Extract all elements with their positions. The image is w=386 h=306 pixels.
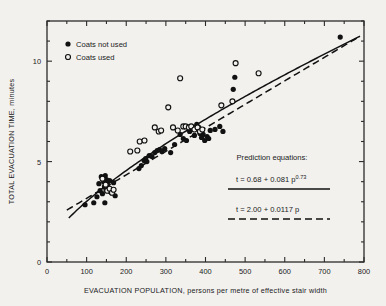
x-tick-label: 200: [120, 267, 132, 276]
fit-curve-linear-fit: [67, 36, 360, 210]
data-point-coats-not-used: [208, 128, 213, 133]
evacuation-time-scatter-chart: 01002003004005006007008000510EVACUATION …: [0, 0, 386, 306]
data-point-coats-used: [171, 125, 176, 130]
prediction-equation-2: t = 2.00 + 0.0117 p: [236, 205, 299, 214]
y-tick-label: 5: [37, 158, 41, 167]
x-tick-label: 0: [45, 267, 49, 276]
legend-label-0: Coats not used: [76, 40, 127, 49]
data-point-coats-not-used: [168, 150, 173, 155]
data-point-coats-not-used: [232, 75, 237, 80]
data-point-coats-not-used: [231, 87, 236, 92]
x-tick-label: 800: [358, 267, 370, 276]
data-point-coats-not-used: [220, 129, 225, 134]
data-point-coats-not-used: [82, 202, 87, 207]
x-tick-label: 100: [80, 267, 92, 276]
data-point-coats-not-used: [100, 191, 105, 196]
data-point-coats-not-used: [111, 180, 116, 185]
data-point-coats-used: [152, 125, 157, 130]
data-point-coats-not-used: [91, 200, 96, 205]
data-point-coats-used: [135, 148, 140, 153]
data-point-coats-not-used: [217, 124, 222, 129]
data-point-coats-used: [103, 182, 108, 187]
x-tick-label: 600: [279, 267, 291, 276]
data-point-coats-used: [233, 61, 238, 66]
x-tick-label: 700: [318, 267, 330, 276]
data-point-coats-used: [175, 128, 180, 133]
data-point-coats-not-used: [139, 163, 144, 168]
data-point-coats-used: [256, 71, 261, 76]
data-point-coats-used: [111, 187, 116, 192]
data-point-coats-not-used: [172, 142, 177, 147]
x-axis-title: EVACUATION POPULATION, persons per metre…: [84, 286, 327, 295]
prediction-equations-heading: Prediction equations:: [237, 153, 308, 162]
data-point-coats-used: [230, 99, 235, 104]
data-point-coats-not-used: [102, 200, 107, 205]
data-point-coats-not-used: [96, 181, 101, 186]
y-tick-label: 10: [33, 57, 41, 66]
data-point-coats-not-used: [162, 146, 167, 151]
x-tick-label: 400: [199, 267, 211, 276]
data-point-coats-not-used: [184, 138, 189, 143]
chart-canvas: 01002003004005006007008000510EVACUATION …: [0, 0, 386, 306]
data-point-coats-not-used: [192, 133, 197, 138]
data-point-coats-not-used: [206, 136, 211, 141]
legend-marker-open-circle: [66, 55, 71, 60]
data-point-coats-used: [166, 105, 171, 110]
data-point-coats-used: [142, 138, 147, 143]
x-tick-label: 500: [239, 267, 251, 276]
data-point-coats-used: [178, 76, 183, 81]
data-point-coats-not-used: [212, 127, 217, 132]
data-point-coats-used: [137, 139, 142, 144]
data-point-coats-used: [100, 176, 105, 181]
y-axis-title: TOTAL EVACUATION TIME, minutes: [7, 79, 16, 205]
data-point-coats-used: [128, 149, 133, 154]
data-point-coats-used: [219, 103, 224, 108]
data-point-coats-not-used: [144, 159, 149, 164]
data-point-coats-used: [200, 127, 205, 132]
y-tick-label: 0: [37, 258, 41, 267]
data-point-coats-not-used: [94, 194, 99, 199]
data-point-coats-used: [159, 128, 164, 133]
x-tick-label: 300: [160, 267, 172, 276]
legend-marker-filled-circle: [65, 41, 70, 46]
legend-label-1: Coats used: [76, 53, 114, 62]
data-point-coats-not-used: [338, 34, 343, 39]
prediction-equation-1: t = 0.68 + 0.081 p0.73: [236, 174, 306, 184]
